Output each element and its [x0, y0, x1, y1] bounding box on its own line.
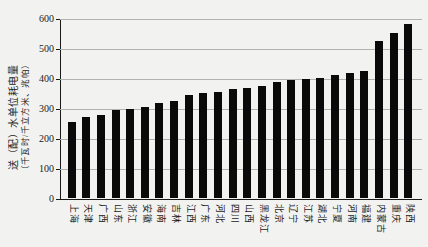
x-tick-label-吉林: 吉林 — [167, 204, 181, 224]
y-tick-label-600: 600 — [20, 13, 54, 25]
x-tick-label-黑龙江: 黑龙江 — [255, 204, 269, 234]
bar-江苏 — [302, 79, 310, 198]
bar-广西 — [97, 115, 105, 198]
x-axis-line — [60, 199, 422, 200]
bar-山西 — [243, 88, 251, 198]
x-tick-label-河北: 河北 — [211, 204, 225, 224]
bar-江西 — [185, 95, 193, 198]
bar-安徽 — [141, 107, 149, 199]
bar-辽宁 — [287, 80, 295, 199]
y-tick-label-400: 400 — [20, 73, 54, 85]
bar-陕西 — [404, 24, 412, 198]
bar-海南 — [155, 103, 163, 198]
x-tick-label-浙江: 浙江 — [123, 204, 137, 224]
bar-湖北 — [316, 78, 324, 198]
y-tick-mark-200 — [56, 139, 60, 140]
bar-河南 — [346, 73, 354, 198]
x-tick-label-上海: 上海 — [65, 204, 79, 224]
bar-上海 — [68, 122, 76, 198]
x-tick-label-山西: 山西 — [240, 204, 254, 224]
x-tick-label-广东: 广东 — [196, 204, 210, 224]
x-tick-label-福建: 福建 — [357, 204, 371, 224]
bar-广东 — [199, 93, 207, 198]
bar-四川 — [229, 89, 237, 198]
bar-福建 — [360, 71, 368, 198]
y-tick-label-200: 200 — [20, 133, 54, 145]
x-tick-label-安徽: 安徽 — [138, 204, 152, 224]
x-tick-label-海南: 海南 — [152, 204, 166, 224]
y-tick-mark-400 — [56, 79, 60, 80]
bar-chart-screenshot: 送（配）水单位耗电量 （千瓦时/千立方米、兆帕） 010020030040050… — [0, 0, 428, 247]
bar-河北 — [214, 92, 222, 198]
y-axis-title-line1: 送（配）水单位耗电量 — [7, 60, 20, 174]
x-tick-label-四川: 四川 — [226, 204, 240, 224]
y-tick-mark-500 — [56, 49, 60, 50]
y-tick-mark-0 — [56, 199, 60, 200]
gridline-500 — [60, 49, 422, 50]
bar-北京 — [273, 82, 281, 198]
bar-浙江 — [126, 109, 134, 198]
bar-山东 — [112, 110, 120, 198]
bar-天津 — [82, 117, 90, 198]
y-tick-label-500: 500 — [20, 43, 54, 55]
x-tick-label-山东: 山东 — [109, 204, 123, 224]
bar-黑龙江 — [258, 86, 266, 198]
x-tick-label-江西: 江西 — [182, 204, 196, 224]
bar-内蒙古 — [375, 41, 383, 198]
x-tick-label-内蒙古: 内蒙古 — [372, 204, 386, 234]
x-tick-label-湖北: 湖北 — [313, 204, 327, 224]
y-tick-mark-300 — [56, 109, 60, 110]
y-tick-label-100: 100 — [20, 163, 54, 175]
x-tick-label-陕西: 陕西 — [401, 204, 415, 224]
x-tick-label-河南: 河南 — [343, 204, 357, 224]
bar-吉林 — [170, 101, 178, 198]
x-tick-label-广西: 广西 — [94, 204, 108, 224]
y-tick-label-0: 0 — [20, 193, 54, 205]
x-tick-label-北京: 北京 — [270, 204, 284, 224]
y-tick-label-300: 300 — [20, 103, 54, 115]
x-tick-label-重庆: 重庆 — [387, 204, 401, 224]
plot-area: 0100200300400500600上海天津广西山东浙江安徽海南吉林江西广东河… — [60, 19, 422, 199]
y-tick-mark-100 — [56, 169, 60, 170]
y-tick-mark-600 — [56, 19, 60, 20]
gridline-600 — [60, 19, 422, 20]
x-tick-label-江苏: 江苏 — [299, 204, 313, 224]
bar-宁夏 — [331, 75, 339, 198]
x-tick-label-天津: 天津 — [79, 204, 93, 224]
x-tick-label-辽宁: 辽宁 — [284, 204, 298, 224]
bar-重庆 — [390, 33, 398, 198]
x-tick-label-宁夏: 宁夏 — [328, 204, 342, 224]
